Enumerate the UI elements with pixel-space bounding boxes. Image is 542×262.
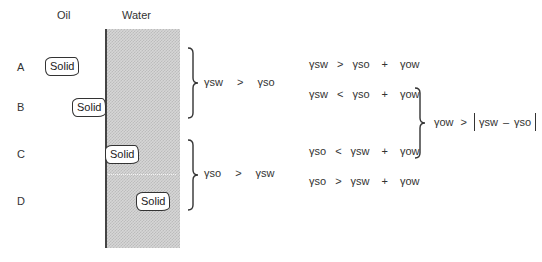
absolute-value: γsw–γso [474,113,536,131]
combined-abs-right: γso [514,113,531,131]
regime-ab-rhs: γso [257,76,274,88]
regime-ab-op: > [237,76,243,88]
cond-b-op: < [337,88,343,100]
cond-b-term1: γsw [309,88,328,100]
water-region [105,29,180,248]
condition-c: γso<γsw+γow [309,145,420,157]
water-label: Water [122,9,151,21]
regime-cd-lhs: γso [204,167,221,179]
cond-b-plus: + [382,88,388,100]
regime-ab: γsw>γso [204,76,275,88]
combined-lhs: γow [434,116,454,128]
condition-d: γso>γsw+γow [309,175,420,187]
condition-a: γsw>γso+γow [309,58,420,70]
case-a-label: A [17,61,24,73]
cond-b-term3: γow [400,88,420,100]
regime-ab-lhs: γsw [204,76,223,88]
solid-a: Solid [45,57,79,76]
cond-d-term3: γow [400,175,420,187]
condition-b: γsw<γso+γow [309,88,420,100]
cond-c-op: < [335,145,341,157]
solid-b: Solid [72,98,106,117]
combined-minus: – [503,113,509,131]
case-d-label: D [17,195,25,207]
cond-d-op: > [335,175,341,187]
regime-cd: γso>γsw [204,167,275,179]
oil-label: Oil [57,9,70,21]
regime-cd-op: > [235,167,241,179]
cond-d-term2: γsw [351,175,370,187]
cond-b-term2: γso [352,88,369,100]
combined-abs-left: γsw [479,113,498,131]
combined-op: > [461,116,467,128]
cond-c-plus: + [382,145,388,157]
regime-cd-rhs: γsw [256,167,275,179]
water-divider [108,174,176,175]
combined-condition: γow>γsw–γso [434,116,536,131]
cond-a-term1: γsw [309,58,328,70]
case-b-label: B [17,101,24,113]
cond-a-term3: γow [400,58,420,70]
cond-c-term3: γow [400,145,420,157]
cond-c-term1: γso [309,145,326,157]
cond-a-plus: + [382,58,388,70]
cond-d-plus: + [382,175,388,187]
cond-d-term1: γso [309,175,326,187]
cond-a-term2: γso [352,58,369,70]
case-c-label: C [17,148,25,160]
brace-ab [186,47,200,119]
solid-d: Solid [136,192,170,211]
brace-cd [186,139,200,211]
solid-c: Solid [105,145,139,164]
cond-c-term2: γsw [351,145,370,157]
cond-a-op: > [337,58,343,70]
